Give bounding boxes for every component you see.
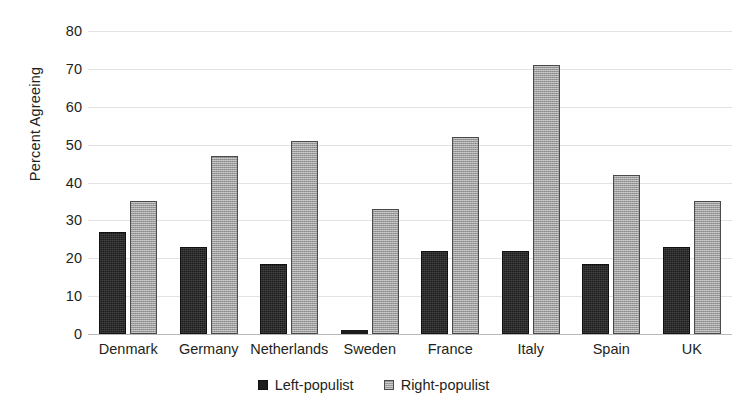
bar-group-germany [169, 31, 250, 334]
y-tick-label-50: 50 [42, 138, 82, 153]
bar-uk-right [694, 201, 721, 334]
bar-group-denmark [88, 31, 169, 334]
bar-group-italy [491, 31, 572, 334]
bar-netherlands-left [260, 264, 287, 334]
y-tick-label-0: 0 [42, 327, 82, 342]
bar-spain-right [613, 175, 640, 334]
bar-group-france [410, 31, 491, 334]
x-axis-category-labels: DenmarkGermanyNetherlandsSwedenFranceIta… [88, 341, 732, 357]
x-label-uk: UK [652, 341, 733, 357]
bar-uk-left [663, 247, 690, 334]
chart-legend: Left-populistRight-populist [0, 377, 747, 393]
bar-denmark-right [130, 201, 157, 334]
bar-group-uk [652, 31, 733, 334]
bar-group-spain [571, 31, 652, 334]
x-label-spain: Spain [571, 341, 652, 357]
bar-group-netherlands [249, 31, 330, 334]
bar-chart: Percent Agreeing 80706050403020100 Denma… [0, 0, 747, 418]
y-tick-label-40: 40 [42, 176, 82, 191]
bar-germany-left [180, 247, 207, 334]
bar-spain-left [582, 264, 609, 334]
legend-swatch-icon [384, 380, 394, 390]
x-label-netherlands: Netherlands [249, 341, 330, 357]
bar-netherlands-right [291, 141, 318, 334]
legend-label: Right-populist [401, 377, 490, 393]
x-label-france: France [410, 341, 491, 357]
x-axis-line [88, 334, 732, 335]
bar-group-sweden [330, 31, 411, 334]
y-tick-label-30: 30 [42, 213, 82, 228]
x-label-germany: Germany [169, 341, 250, 357]
bar-germany-right [211, 156, 238, 334]
bar-italy-right [533, 65, 560, 334]
y-axis-title: Percent Agreeing [27, 29, 43, 219]
legend-item-right-populist[interactable]: Right-populist [384, 377, 490, 393]
x-label-italy: Italy [491, 341, 572, 357]
bar-denmark-left [99, 232, 126, 334]
bar-groups [88, 31, 732, 334]
legend-swatch-icon [258, 380, 268, 390]
y-tick-label-60: 60 [42, 100, 82, 115]
y-tick-label-80: 80 [42, 24, 82, 39]
y-tick-label-70: 70 [42, 62, 82, 77]
y-tick-label-10: 10 [42, 289, 82, 304]
x-label-sweden: Sweden [330, 341, 411, 357]
bar-sweden-right [372, 209, 399, 334]
bar-france-right [452, 137, 479, 334]
legend-item-left-populist[interactable]: Left-populist [258, 377, 354, 393]
plot-area: 80706050403020100 [88, 31, 732, 334]
bar-italy-left [502, 251, 529, 334]
legend-label: Left-populist [275, 377, 354, 393]
x-label-denmark: Denmark [88, 341, 169, 357]
bar-france-left [421, 251, 448, 334]
y-tick-label-20: 20 [42, 251, 82, 266]
